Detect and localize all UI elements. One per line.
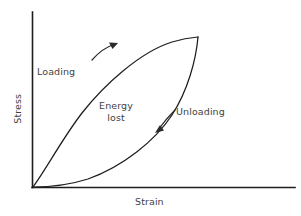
stress-strain-hysteresis-figure: Loading Energy lost Unloading Strain Str…	[0, 0, 301, 216]
chart-canvas	[0, 0, 301, 216]
loading-label: Loading	[37, 66, 75, 78]
unloading-label: Unloading	[176, 106, 225, 118]
stress-axis-label: Stress	[12, 83, 24, 135]
energy-lost-label: Energy lost	[93, 100, 139, 123]
strain-axis-label: Strain	[135, 196, 164, 208]
